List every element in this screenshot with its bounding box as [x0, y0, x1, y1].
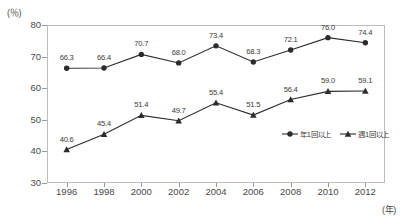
data-point-value-label: 66.4 — [90, 53, 118, 62]
line-chart: (％) 304050607080 19961998200020022004200… — [0, 0, 403, 224]
data-point-marker — [288, 47, 293, 52]
triangle-marker-icon — [340, 130, 356, 138]
data-point-marker — [363, 40, 368, 45]
data-point-value-label: 59.1 — [351, 76, 379, 85]
data-point-value-label: 56.4 — [277, 85, 305, 94]
data-point-value-label: 51.5 — [239, 100, 267, 109]
data-point-marker — [213, 43, 218, 48]
data-point-value-label: 68.0 — [165, 48, 193, 57]
data-point-value-label: 66.3 — [53, 53, 81, 62]
data-point-value-label: 72.1 — [277, 35, 305, 44]
legend-item: 年1回以上 — [282, 128, 331, 139]
data-point-value-label: 51.4 — [127, 100, 155, 109]
legend: 年1回以上週1回以上 — [282, 128, 389, 139]
data-point-marker — [213, 99, 220, 105]
data-point-marker — [139, 52, 144, 57]
data-point-marker — [101, 65, 106, 70]
data-point-value-label: 45.4 — [90, 119, 118, 128]
data-point-marker — [251, 59, 256, 64]
data-point-value-label: 40.6 — [53, 135, 81, 144]
circle-marker-icon — [282, 130, 298, 138]
legend-label: 年1回以上 — [300, 128, 331, 139]
data-point-value-label: 49.7 — [165, 106, 193, 115]
data-point-value-label: 68.3 — [239, 47, 267, 56]
data-point-marker — [63, 146, 70, 152]
data-point-marker — [64, 66, 69, 71]
data-point-value-label: 55.4 — [202, 88, 230, 97]
data-point-marker — [138, 112, 145, 118]
legend-item: 週1回以上 — [340, 128, 389, 139]
data-point-value-label: 70.7 — [127, 39, 155, 48]
data-point-value-label: 76.0 — [314, 23, 342, 32]
data-point-marker — [176, 60, 181, 65]
data-point-value-label: 74.4 — [351, 28, 379, 37]
data-point-value-label: 73.4 — [202, 31, 230, 40]
data-point-marker — [325, 35, 330, 40]
data-point-value-label: 59.0 — [314, 76, 342, 85]
legend-label: 週1回以上 — [358, 128, 389, 139]
x-axis-unit-label: (年) — [382, 203, 396, 216]
data-point-marker — [101, 131, 108, 137]
